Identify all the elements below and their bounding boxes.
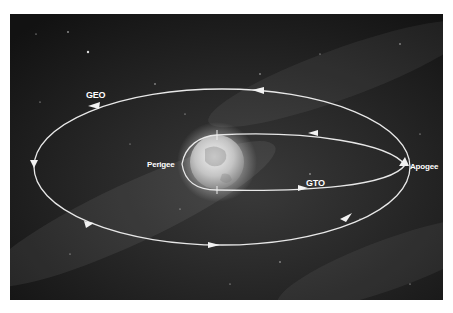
- orbit-graphic: [10, 14, 443, 300]
- orbit-diagram: GEO GTO Perigee Apogee: [10, 14, 443, 300]
- perigee-label: Perigee: [147, 160, 175, 169]
- geo-label: GEO: [86, 90, 105, 100]
- gto-label: GTO: [306, 178, 325, 188]
- apogee-label: Apogee: [410, 162, 438, 171]
